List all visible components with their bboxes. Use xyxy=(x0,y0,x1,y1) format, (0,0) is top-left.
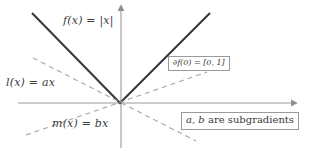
subdifferential-annotation-box: ∂f(0) = [0, 1] xyxy=(168,56,230,71)
curve-label-m: m(x) = bx xyxy=(52,117,108,130)
curve-label-f: f(x) = |x| xyxy=(63,14,114,27)
subgradients-variables: a, b xyxy=(186,114,205,125)
subgradients-text: are subgradients xyxy=(205,114,294,125)
curve-label-l: l(x) = ax xyxy=(6,76,55,89)
subgradients-annotation-box: a, b are subgradients xyxy=(181,112,299,130)
figure-canvas: f(x) = |x| l(x) = ax m(x) = bx ∂f(0) = [… xyxy=(0,0,314,151)
